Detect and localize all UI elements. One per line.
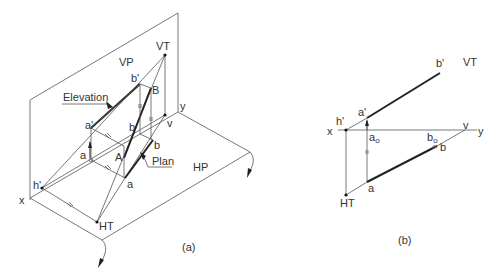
label-h-prime: h' <box>33 179 41 191</box>
label-b: b <box>154 139 160 151</box>
label-v: v <box>167 117 173 129</box>
vt-point <box>163 53 166 56</box>
caption-b: (b) <box>398 234 411 246</box>
figure-a-pictorial: VP VT y v b' B Elevation a' b b a A Plan… <box>19 13 253 268</box>
label-vt: VT <box>156 40 170 52</box>
label-b0: bo <box>427 131 438 145</box>
label-b-prime: b' <box>131 72 139 84</box>
plan-line-a-b <box>367 146 437 182</box>
bprime-B-connector <box>140 84 151 88</box>
label-v: v <box>463 119 469 131</box>
label-A: A <box>115 151 123 163</box>
label-x: x <box>327 125 333 137</box>
rotation-arrowhead-hp-right <box>247 168 252 178</box>
label-plan: Plan <box>152 155 174 167</box>
label-a: a <box>127 178 134 190</box>
label-b-prime: b' <box>436 57 444 69</box>
label-a-prime: a' <box>358 106 366 118</box>
label-vp: VP <box>119 56 134 68</box>
label-B: B <box>152 84 159 96</box>
label-a-prime: a' <box>85 119 93 131</box>
hprime-aprime-line <box>346 118 367 130</box>
label-y: y <box>478 125 484 137</box>
vt-hprime-line <box>42 55 165 188</box>
label-ht: HT <box>99 220 114 232</box>
label-a0: a <box>80 149 87 161</box>
label-ht: HT <box>340 197 355 209</box>
elevation-line-aprime-bprime <box>367 73 440 118</box>
rotation-arrow-hp <box>101 240 106 262</box>
label-x: x <box>19 194 25 206</box>
label-h-prime: h' <box>336 115 344 127</box>
caption-a: (a) <box>182 241 195 253</box>
label-elevation: Elevation <box>63 91 108 103</box>
hprime-v-line <box>42 115 165 188</box>
figure-b-orthographic: b' VT a' h' x v y ao bo b a HT (b) <box>327 56 484 246</box>
label-b: b <box>440 141 446 153</box>
rotation-arrowhead-hp <box>98 258 104 268</box>
label-hp: HP <box>193 161 208 173</box>
label-y: y <box>180 100 186 112</box>
projection-diagram: VP VT y v b' B Elevation a' b b a A Plan… <box>0 0 494 279</box>
ht-a-line <box>346 182 367 195</box>
a0-up-arrowhead-icon <box>365 119 369 126</box>
hprime-point <box>344 128 347 131</box>
label-vt: VT <box>463 56 477 68</box>
label-a: a <box>368 182 375 194</box>
label-a0: ao <box>369 131 380 145</box>
label-b0: b <box>129 121 135 133</box>
